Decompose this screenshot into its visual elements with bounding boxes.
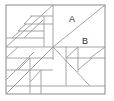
quilt-block-figure: AB <box>0 0 114 101</box>
quilt-block-svg: AB <box>0 0 114 101</box>
label-region-a: A <box>69 14 75 24</box>
label-region-b: B <box>82 36 88 46</box>
